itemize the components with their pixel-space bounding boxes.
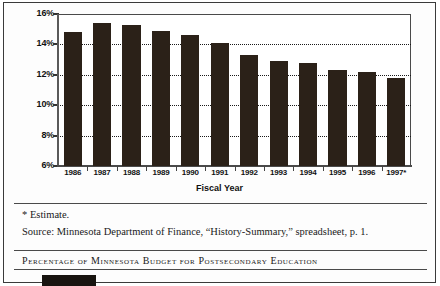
y-axis-tick-label: 6% <box>20 160 54 170</box>
bar-slot <box>181 14 199 166</box>
x-axis-tick-label: 1992 <box>235 168 264 177</box>
x-axis-tick-label: 1987 <box>87 168 116 177</box>
x-axis-tick-separator <box>323 166 324 171</box>
x-axis-title: Fiscal Year <box>4 183 435 193</box>
separator-rule-top <box>14 203 427 204</box>
x-axis-tick-label: 1986 <box>58 168 87 177</box>
x-axis-tick-separator <box>235 166 236 171</box>
bar[interactable] <box>299 63 317 166</box>
y-axis-labels: 16%14%12%10%8%6% <box>14 3 54 178</box>
separator-rule-bottom <box>14 269 427 270</box>
y-axis-tick-label: 14% <box>20 38 54 48</box>
bar[interactable] <box>211 43 229 166</box>
bar[interactable] <box>270 61 288 166</box>
bar-slot <box>328 14 346 166</box>
figure-caption: Percentage of Minnesota Budget for Posts… <box>22 255 427 266</box>
bars-group <box>58 14 411 166</box>
x-axis-tick-separator <box>146 166 147 171</box>
x-axis-tick-label: 1994 <box>293 168 322 177</box>
x-axis-tick-label: 1988 <box>117 168 146 177</box>
y-axis-tick-label: 12% <box>20 69 54 79</box>
bar-chart-figure: 16%14%12%10%8%6% 19861987198819891990199… <box>4 3 435 201</box>
x-axis-tick-label: 1996 <box>352 168 381 177</box>
bar[interactable] <box>122 25 140 166</box>
x-axis-tick-label: 1993 <box>264 168 293 177</box>
bar[interactable] <box>152 31 170 166</box>
bar[interactable] <box>240 55 258 166</box>
bar-slot <box>64 14 82 166</box>
bar-slot <box>93 14 111 166</box>
bar[interactable] <box>93 23 111 166</box>
bar[interactable] <box>328 70 346 166</box>
bar-slot <box>299 14 317 166</box>
y-axis-tick-label: 8% <box>20 130 54 140</box>
estimate-note: * Estimate. <box>22 207 422 222</box>
x-axis-tick-separator <box>87 166 88 171</box>
x-axis-tick-label: 1989 <box>146 168 175 177</box>
bar-slot <box>122 14 140 166</box>
x-axis-tick-separator <box>352 166 353 171</box>
bar[interactable] <box>181 35 199 166</box>
x-axis-tick-label: 1995 <box>323 168 352 177</box>
bar-slot <box>387 14 405 166</box>
bar-slot <box>358 14 376 166</box>
x-axis-tick-label: 1997* <box>382 168 411 177</box>
x-axis-tick-label: 1991 <box>205 168 234 177</box>
x-axis-tick-separator <box>117 166 118 171</box>
color-swatch <box>42 275 96 286</box>
bar-slot <box>240 14 258 166</box>
y-axis-tick-label: 10% <box>20 99 54 109</box>
x-axis-tick-separator <box>293 166 294 171</box>
page-container: 16%14%12%10%8%6% 19861987198819891990199… <box>3 2 436 283</box>
x-axis-tick-separator <box>176 166 177 171</box>
x-axis-tick-separator <box>205 166 206 171</box>
bar[interactable] <box>387 78 405 166</box>
x-axis-tick-separator <box>382 166 383 171</box>
x-axis-labels: 1986198719881989199019911992199319941995… <box>58 168 411 182</box>
bar[interactable] <box>358 72 376 166</box>
source-note: Source: Minnesota Department of Finance,… <box>22 224 422 239</box>
bar-slot <box>270 14 288 166</box>
bar-slot <box>211 14 229 166</box>
bar[interactable] <box>64 32 82 166</box>
x-axis-tick-label: 1990 <box>176 168 205 177</box>
separator-rule-middle <box>14 250 427 251</box>
y-axis-tick-label: 16% <box>20 8 54 18</box>
bar-slot <box>152 14 170 166</box>
footnotes: * Estimate. Source: Minnesota Department… <box>22 207 422 239</box>
x-axis-tick-separator <box>264 166 265 171</box>
